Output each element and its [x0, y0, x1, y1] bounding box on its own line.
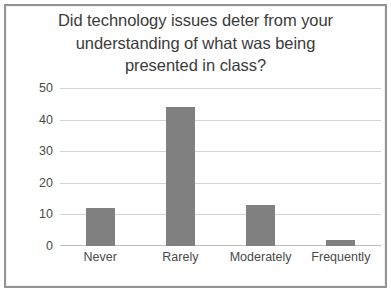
- bar-frequently: [326, 240, 355, 246]
- bar-moderately: [246, 205, 275, 246]
- chart-container: Did technology issues deter from your un…: [0, 0, 391, 292]
- plot-area: [60, 88, 381, 246]
- y-axis: 01020304050: [20, 88, 53, 246]
- bar-rarely: [166, 107, 195, 246]
- bar-never: [86, 208, 115, 246]
- y-tick-label: 50: [39, 81, 53, 95]
- x-tick-label: Moderately: [230, 250, 292, 264]
- y-tick-label: 30: [39, 144, 53, 158]
- x-tick-label: Frequently: [311, 250, 370, 264]
- x-tick-label: Rarely: [162, 250, 198, 264]
- y-tick-label: 0: [46, 239, 53, 253]
- x-axis: NeverRarelyModeratelyFrequently: [60, 250, 381, 270]
- x-tick-label: Never: [83, 250, 116, 264]
- chart-title: Did technology issues deter from your un…: [14, 9, 377, 77]
- y-tick-label: 20: [39, 176, 53, 190]
- y-tick-label: 40: [39, 113, 53, 127]
- y-tick-label: 10: [39, 207, 53, 221]
- bars-group: [60, 88, 381, 246]
